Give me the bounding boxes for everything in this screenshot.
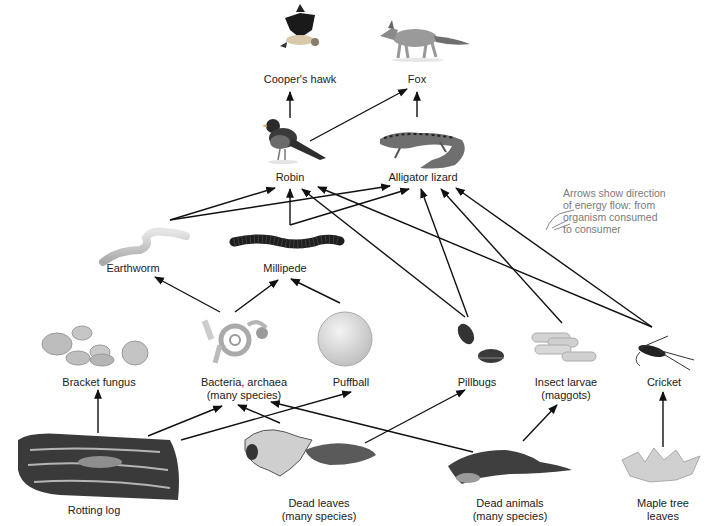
label-bacteria-archaea: Bacteria, archaea(many species) [201,376,287,402]
label-maple-tree-leaves: Maple treeleaves [637,497,689,523]
bacteria-icon [202,320,268,364]
label-dead-animals: Dead animals(many species) [473,497,548,523]
arrow-larvae-to-lizard [441,189,562,323]
arrow-animals-to-larvae [523,405,557,441]
arrow-bacteria-to-millipede [235,280,278,312]
label-pillbugs: Pillbugs [458,376,497,389]
bracket-fungus-icon [42,326,148,366]
arrow-puffball-to-millipede [291,279,340,303]
label-puffball: Puffball [333,376,370,389]
arrow-bacteria-to-earthworm [155,277,220,312]
robin-icon [262,119,326,164]
label-rotting-log: Rotting log [68,504,121,517]
label-coopers-hawk: Cooper's hawk [264,73,336,86]
pillbug-icon [454,321,504,363]
label-robin: Robin [276,171,305,184]
arrow-pillbugs-to-lizard [421,189,468,317]
dead-animal-icon [448,450,572,484]
cricket-icon [636,336,694,370]
label-fox: Fox [408,73,426,86]
label-dead-leaves: Dead leaves(many species) [282,497,357,523]
arrow-robin-to-fox [310,89,407,141]
maple-leaf-icon [622,448,700,482]
energy-flow-note: Arrows show direction of energy flow: fr… [563,187,713,235]
larvae-icon [532,333,596,361]
earthworm-icon [103,232,186,262]
lizard-icon [380,132,465,168]
fox-icon [380,20,470,62]
label-alligator-lizard: Alligator lizard [388,171,457,184]
label-bracket-fungus: Bracket fungus [62,376,135,389]
label-insect-larvae: Insect larvae(maggots) [535,376,597,402]
food-web-diagram: Cooper's hawk Fox Robin Alligator lizard… [0,0,721,526]
log-icon [18,434,179,500]
label-millipede: Millipede [263,262,306,275]
arrow-pillbugs-to-robin [302,189,465,317]
dead-leaves-icon [245,430,376,476]
label-cricket: Cricket [647,376,681,389]
puffball-icon [318,312,372,366]
hawk-icon [280,4,319,48]
arrow-earthworm-to-robin [170,188,275,220]
label-earthworm: Earthworm [106,262,159,275]
millipede-icon [234,239,340,244]
arrow-leaves-to-pillbugs [365,390,465,443]
